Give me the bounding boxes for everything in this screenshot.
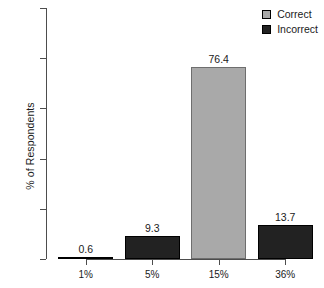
y-tick [40,209,46,210]
x-tick [219,259,220,265]
bar [258,225,313,259]
bar-chart: % of Respondents 020406080100 0.69.376.4… [0,0,324,288]
x-tick-label: 1% [79,269,93,280]
y-tick [40,108,46,109]
bar-value-label: 76.4 [191,53,246,65]
y-tick [40,259,46,260]
legend-item-correct: Correct [262,8,318,20]
y-tick [40,58,46,59]
x-tick-label: 5% [145,269,159,280]
legend-swatch-correct [262,10,271,19]
x-tick [285,259,286,265]
y-tick [40,159,46,160]
legend-label-incorrect: Incorrect [277,23,318,35]
legend-item-incorrect: Incorrect [262,23,318,35]
bar-value-label: 9.3 [125,222,180,234]
y-axis-title: % of Respondents [24,71,36,221]
bar [191,67,246,259]
bar-value-label: 0.6 [58,243,113,255]
bar-value-label: 13.7 [258,211,313,223]
x-tick-label: 15% [209,269,229,280]
legend-label-correct: Correct [277,8,311,20]
y-tick [40,8,46,9]
x-axis-line [86,259,285,260]
x-tick [86,259,87,265]
bar [125,236,180,259]
legend-swatch-incorrect [262,25,271,34]
plot-area: 0.69.376.413.7 [47,8,324,259]
x-tick-label: 36% [275,269,295,280]
legend: Correct Incorrect [262,8,318,35]
x-tick [152,259,153,265]
